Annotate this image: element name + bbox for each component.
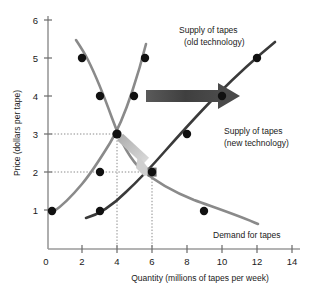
x-tick-label-2: 2 <box>79 256 84 267</box>
supply-demand-chart: 6 5 4 3 2 1 0 2 4 6 8 10 12 14 Price (do… <box>0 0 335 288</box>
y-tick-label-3: 3 <box>33 129 38 140</box>
x-tick-label-8: 8 <box>184 256 189 267</box>
supply-old-label-line2: (old technology) <box>184 37 245 47</box>
supply-old-label: Supply of tapes (old technology) <box>179 25 245 47</box>
supply-new-label-line1: Supply of tapes <box>224 126 283 136</box>
data-point <box>96 168 104 176</box>
data-point <box>96 207 104 215</box>
x-tick-label-0: 0 <box>43 256 48 267</box>
supply-old-label-line1: Supply of tapes <box>179 25 238 35</box>
data-point <box>253 54 261 62</box>
data-point <box>183 130 191 138</box>
y-tick-label-2: 2 <box>33 167 38 178</box>
supply-new-label-line2: (new technology) <box>224 138 289 148</box>
data-point <box>48 207 56 215</box>
y-tick-label-5: 5 <box>33 53 38 64</box>
demand-label: Demand for tapes <box>213 230 281 240</box>
data-point <box>218 92 226 100</box>
data-point <box>78 54 86 62</box>
data-point <box>141 54 149 62</box>
x-tick-labels: 0 2 4 6 8 10 12 14 <box>43 256 297 267</box>
data-point <box>96 92 104 100</box>
data-point <box>200 207 208 215</box>
x-tick-label-4: 4 <box>114 256 119 267</box>
x-tick-label-12: 12 <box>252 256 263 267</box>
x-tick-label-6: 6 <box>149 256 154 267</box>
data-point <box>130 92 138 100</box>
y-tick-labels: 6 5 4 3 2 1 <box>33 15 38 216</box>
data-point <box>148 168 156 176</box>
supply-old-markers <box>48 54 149 215</box>
y-tick-label-6: 6 <box>33 15 38 26</box>
x-tick-label-14: 14 <box>287 256 298 267</box>
x-tick-label-10: 10 <box>217 256 228 267</box>
y-axis-title: Price (dollars per tape) <box>12 90 22 176</box>
supply-new-label: Supply of tapes (new technology) <box>224 126 289 148</box>
x-axis-title: Quantity (millions of tapes per week) <box>131 273 269 283</box>
y-tick-label-4: 4 <box>33 91 38 102</box>
data-point-equilibrium-old <box>112 129 121 138</box>
y-tick-label-1: 1 <box>33 205 38 216</box>
